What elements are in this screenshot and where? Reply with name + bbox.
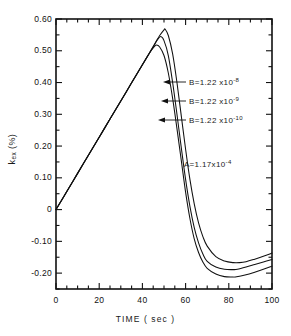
data-curve-3 [56, 45, 272, 277]
arrow-head-3 [158, 117, 165, 122]
series-label-text: B=1.22 x10 [189, 97, 233, 106]
series-label-exponent: -10 [233, 115, 243, 121]
series-label-text: B=1.22 x10 [189, 116, 233, 125]
y-tick-label: -0.10 [31, 236, 52, 246]
y-axis-title-sub: ex [10, 152, 17, 160]
axes-frame [56, 19, 272, 289]
parameter-annotation-text: A=1.17x10 [184, 159, 226, 168]
x-tick-label: 80 [209, 295, 249, 305]
parameter-annotation-exponent: -4 [226, 159, 232, 165]
x-tick-label: 20 [79, 295, 119, 305]
y-tick-label: 0.40 [34, 77, 52, 87]
y-axis-title-main: k [7, 160, 17, 165]
data-curve-1 [56, 29, 272, 263]
x-axis-title: TIME ( sec ) [0, 314, 291, 324]
y-tick-label: 0.60 [34, 14, 52, 24]
figure-container: 0.600.500.400.300.200.100-0.10-0.20 0204… [0, 0, 291, 336]
y-tick-label: -0.20 [31, 268, 52, 278]
series-label-text: B=1.22 x10 [189, 78, 233, 87]
series-label-2: B=1.22 x10-9 [189, 96, 239, 106]
arrow-head-2 [161, 98, 168, 103]
x-tick-label: 0 [36, 295, 76, 305]
y-tick-label: 0 [47, 204, 52, 214]
series-label-exponent: -9 [233, 96, 239, 102]
tick-marks [56, 19, 272, 289]
series-label-3: B=1.22 x10-10 [189, 115, 243, 125]
x-tick-label: 60 [166, 295, 206, 305]
y-axis-title-unit: (%) [7, 134, 17, 152]
data-curve-2 [56, 36, 272, 269]
y-tick-label: 0.10 [34, 172, 52, 182]
y-tick-label: 0.20 [34, 141, 52, 151]
x-tick-label: 40 [122, 295, 162, 305]
arrow-head-1 [163, 79, 170, 84]
y-tick-label: 0.30 [34, 109, 52, 119]
y-tick-label: 0.50 [34, 45, 52, 55]
x-tick-label: 100 [252, 295, 291, 305]
parameter-annotation: A=1.17x10-4 [184, 159, 232, 169]
series-label-exponent: -8 [233, 77, 239, 83]
data-curves [56, 29, 272, 277]
y-axis-title: kex (%) [7, 114, 17, 184]
series-label-1: B=1.22 x10-8 [189, 77, 239, 87]
